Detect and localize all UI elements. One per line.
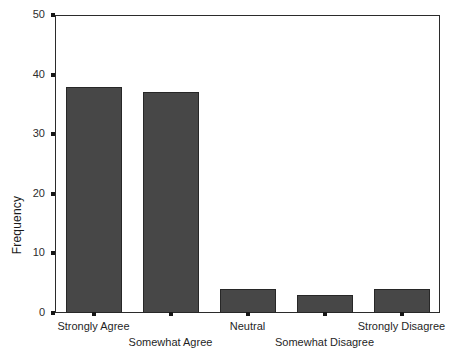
y-tick-mark bbox=[51, 13, 55, 17]
y-tick-label: 0 bbox=[0, 306, 45, 318]
x-tick-mark bbox=[323, 312, 327, 316]
y-tick-mark bbox=[51, 311, 55, 315]
bar bbox=[66, 87, 122, 313]
y-tick-label: 50 bbox=[0, 8, 45, 20]
x-tick-label: Somewhat Disagree bbox=[250, 336, 400, 348]
x-tick-mark bbox=[92, 312, 96, 316]
bar bbox=[143, 92, 199, 313]
x-tick-label: Strongly Agree bbox=[19, 320, 169, 332]
y-tick-label: 30 bbox=[0, 127, 45, 139]
bar bbox=[220, 289, 276, 313]
y-tick-mark bbox=[51, 73, 55, 77]
y-tick-label: 40 bbox=[0, 68, 45, 80]
y-tick-mark bbox=[51, 251, 55, 255]
x-tick-label: Strongly Disagree bbox=[327, 320, 452, 332]
y-tick-label: 10 bbox=[0, 246, 45, 258]
bar bbox=[297, 295, 353, 313]
x-tick-label: Somewhat Agree bbox=[96, 336, 246, 348]
bar-chart: Frequency 01020304050 Strongly AgreeSome… bbox=[0, 0, 452, 362]
y-tick-mark bbox=[51, 132, 55, 136]
y-tick-label: 20 bbox=[0, 187, 45, 199]
x-tick-mark bbox=[246, 312, 250, 316]
x-tick-label: Neutral bbox=[173, 320, 323, 332]
bar bbox=[374, 289, 430, 313]
x-tick-mark bbox=[169, 312, 173, 316]
x-tick-mark bbox=[400, 312, 404, 316]
y-tick-mark bbox=[51, 192, 55, 196]
